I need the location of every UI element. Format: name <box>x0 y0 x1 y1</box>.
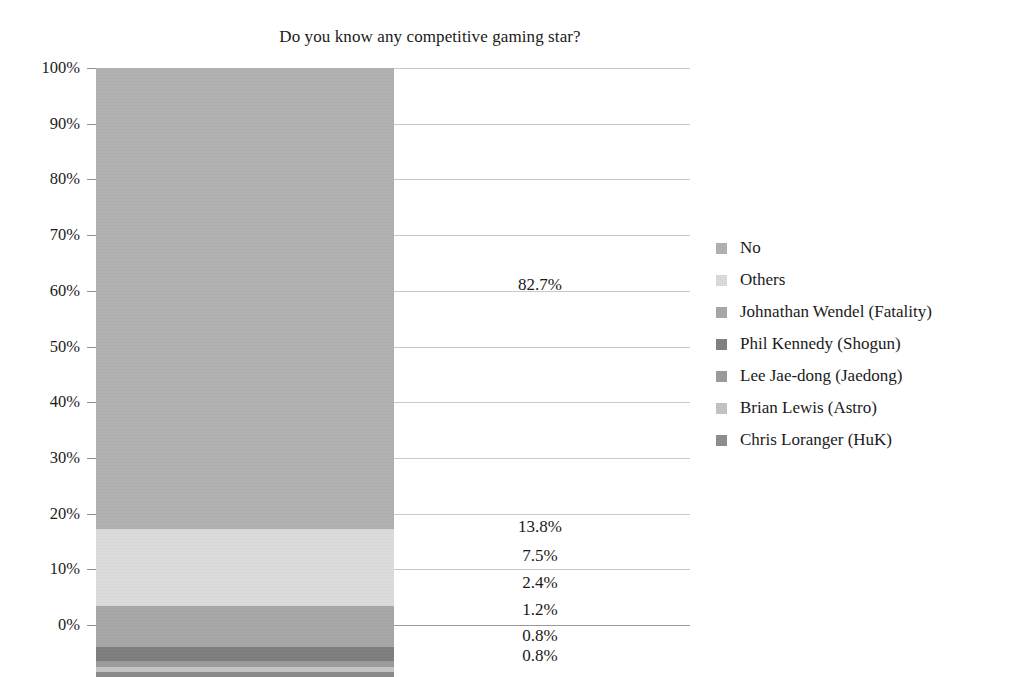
legend-item[interactable]: Lee Jae-dong (Jaedong) <box>716 360 932 392</box>
legend-swatch-icon <box>716 307 727 318</box>
legend-label: Johnathan Wendel (Fatality) <box>740 302 932 322</box>
bar-segment[interactable] <box>96 672 394 677</box>
data-label: 1.2% <box>522 600 557 620</box>
legend-swatch-icon <box>716 339 727 350</box>
legend-swatch-icon <box>716 435 727 446</box>
tick-mark <box>87 347 96 348</box>
legend-label: Chris Loranger (HuK) <box>740 430 892 450</box>
plot-area: 82.7%13.8%7.5%2.4%1.2%0.8%0.8% <box>96 68 690 625</box>
data-labels: 82.7%13.8%7.5%2.4%1.2%0.8%0.8% <box>96 68 690 625</box>
legend-item[interactable]: No <box>716 232 932 264</box>
legend-swatch-icon <box>716 371 727 382</box>
legend: NoOthersJohnathan Wendel (Fatality)Phil … <box>716 232 932 456</box>
legend-item[interactable]: Others <box>716 264 932 296</box>
bar-segment[interactable] <box>96 647 394 661</box>
legend-label: Lee Jae-dong (Jaedong) <box>740 366 902 386</box>
legend-label: Phil Kennedy (Shogun) <box>740 334 901 354</box>
data-label: 7.5% <box>522 546 557 566</box>
data-label: 13.8% <box>518 517 562 537</box>
legend-swatch-icon <box>716 275 727 286</box>
tick-mark <box>87 625 96 626</box>
legend-item[interactable]: Brian Lewis (Astro) <box>716 392 932 424</box>
y-axis-tick-marks <box>0 68 96 625</box>
data-label: 0.8% <box>522 626 557 646</box>
data-label: 2.4% <box>522 573 557 593</box>
legend-item[interactable]: Johnathan Wendel (Fatality) <box>716 296 932 328</box>
tick-mark <box>87 569 96 570</box>
data-label: 0.8% <box>522 646 557 666</box>
tick-mark <box>87 179 96 180</box>
data-label: 82.7% <box>518 275 562 295</box>
legend-label: Brian Lewis (Astro) <box>740 398 877 418</box>
chart-title: Do you know any competitive gaming star? <box>0 27 860 47</box>
tick-mark <box>87 514 96 515</box>
tick-mark <box>87 124 96 125</box>
tick-mark <box>87 235 96 236</box>
tick-mark <box>87 458 96 459</box>
legend-item[interactable]: Chris Loranger (HuK) <box>716 424 932 456</box>
tick-mark <box>87 402 96 403</box>
tick-mark <box>87 68 96 69</box>
legend-swatch-icon <box>716 403 727 414</box>
legend-label: No <box>740 238 761 258</box>
tick-mark <box>87 291 96 292</box>
legend-label: Others <box>740 270 785 290</box>
legend-swatch-icon <box>716 243 727 254</box>
legend-item[interactable]: Phil Kennedy (Shogun) <box>716 328 932 360</box>
